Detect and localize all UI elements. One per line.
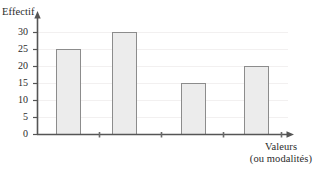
x-axis-title-line-1: Valeurs	[247, 141, 315, 153]
bar-1	[57, 50, 81, 135]
y-tick-label-15: 15	[6, 78, 28, 88]
y-tick-label-0: 0	[6, 129, 28, 139]
y-axis	[34, 11, 40, 135]
x-axis-title-line-2: (ou modalités)	[247, 153, 315, 165]
x-axis-title: Valeurs (ou modalités)	[247, 141, 315, 165]
y-tick-label-20: 20	[6, 61, 28, 71]
bar-chart: Effectif 30 25 20 15 10 5 0 Valeurs (ou …	[0, 0, 317, 171]
y-tick-label-25: 25	[6, 44, 28, 54]
y-tick-label-10: 10	[6, 95, 28, 105]
y-axis-title: Effectif	[2, 6, 35, 18]
bar-2	[113, 33, 137, 135]
y-tick-label-5: 5	[6, 112, 28, 122]
bar-3	[182, 84, 206, 135]
bar-4	[245, 67, 269, 135]
y-tick-label-30: 30	[6, 27, 28, 37]
